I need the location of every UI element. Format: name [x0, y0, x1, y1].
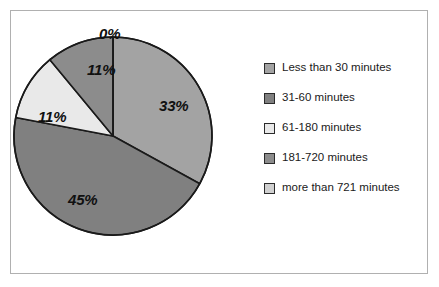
- legend-swatch-icon: [264, 93, 275, 104]
- legend-item[interactable]: 31-60 minutes: [264, 83, 429, 113]
- pie-chart-area: 0% 33% 45% 11% 11%: [11, 11, 256, 275]
- slice-label-45-percent: 45%: [68, 191, 97, 208]
- slice-label-11-percent-left: 11%: [38, 108, 66, 125]
- legend-item[interactable]: more than 721 minutes: [264, 173, 429, 203]
- slice-label-33-percent: 33%: [159, 97, 188, 114]
- legend-item-label: 31-60 minutes: [282, 92, 355, 104]
- legend-swatch-icon: [264, 183, 275, 194]
- legend-swatch-icon: [264, 123, 275, 134]
- legend-swatch-icon: [264, 63, 275, 74]
- legend-item[interactable]: 61-180 minutes: [264, 113, 429, 143]
- chart-frame: 0% 33% 45% 11% 11% Less than 30 minutes3…: [10, 10, 428, 274]
- legend-item[interactable]: 181-720 minutes: [264, 143, 429, 173]
- legend-item[interactable]: Less than 30 minutes: [264, 53, 429, 83]
- legend-item-label: more than 721 minutes: [282, 182, 400, 194]
- chart-legend: Less than 30 minutes31-60 minutes61-180 …: [264, 53, 429, 203]
- legend-item-label: Less than 30 minutes: [282, 62, 391, 74]
- legend-item-label: 181-720 minutes: [282, 152, 368, 164]
- slice-label-11-percent-top: 11%: [87, 61, 115, 78]
- slice-label-zero: 0%: [99, 25, 120, 42]
- legend-swatch-icon: [264, 153, 275, 164]
- legend-item-label: 61-180 minutes: [282, 122, 361, 134]
